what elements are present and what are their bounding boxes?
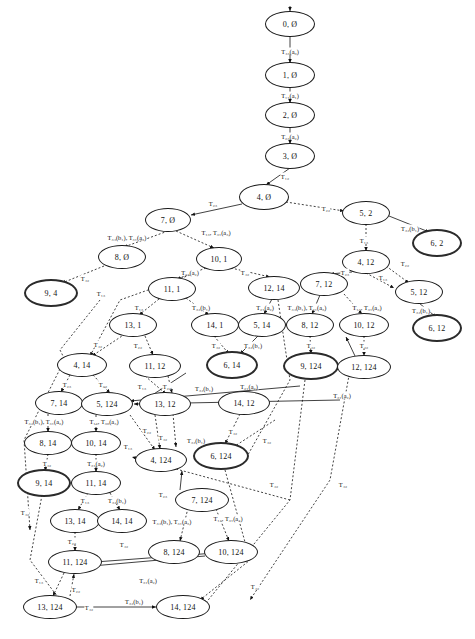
edge-label: T₁₃, T₃₁(a₃) [201, 229, 231, 236]
edge [286, 202, 344, 211]
edge-label: T₂₃ [158, 491, 167, 498]
edge-label: T₃₄(b₁) [194, 385, 213, 392]
edge-label: T₄₂ [269, 481, 278, 488]
edge-label: T₃₄(b₁), T₃₁(a₂) [24, 418, 64, 425]
edge-label: T₂₃(a₂) [281, 133, 300, 140]
graph-node[interactable]: 12, 124 [337, 355, 391, 379]
graph-node[interactable]: 11, 12 [129, 354, 181, 378]
edge-label: T₄₂ [80, 275, 89, 282]
edge-label: T₂₂ [71, 586, 80, 593]
edge-label: T₂₃ [340, 269, 349, 276]
graph-node[interactable]: 6, 2 [412, 229, 462, 257]
edge-label: T₃₄(b₁), T₃₁(a₃) [287, 304, 327, 311]
graph-node[interactable]: 8, 12 [286, 313, 334, 337]
edge-label: T₄₂ [306, 342, 315, 349]
edge-label: T₄₂ [338, 481, 347, 488]
edge-label: T₁₂ [280, 173, 289, 180]
edge-label: T₁₃ [378, 274, 387, 281]
graph-node[interactable]: 3, Ø [265, 143, 315, 169]
graph-node[interactable]: 1, Ø [265, 62, 315, 88]
graph-node[interactable]: 14, 1 [191, 313, 239, 337]
graph-node[interactable]: 4, 124 [135, 448, 187, 472]
edge-label: T₃₄(b₁), T₃₁(a₃) [152, 518, 192, 525]
graph-node[interactable]: 8, 14 [24, 431, 72, 455]
graph-node[interactable]: 8, Ø [98, 245, 146, 269]
edge [173, 414, 176, 447]
graph-node[interactable]: 4, 14 [57, 353, 107, 377]
edge-label: T₃₄(b₁) [243, 342, 262, 349]
edge-label: T₁₃ [80, 497, 89, 504]
edge [30, 495, 60, 600]
graph-node[interactable]: 9, 14 [17, 469, 71, 497]
edge-label: T₄₂ [20, 509, 29, 516]
edge [231, 268, 270, 277]
graph-node[interactable]: 5, 2 [342, 201, 390, 225]
edge-label: T₂₂ [98, 381, 107, 388]
graph-node[interactable]: 6, 12 [412, 314, 462, 342]
edge-label: T₄₂ [211, 342, 220, 349]
edge-label: T₂₁(a₂) [240, 383, 259, 390]
edge [180, 508, 188, 541]
graph-node[interactable]: 12, 14 [248, 276, 300, 300]
edge-label: T₂₃ [208, 200, 217, 207]
edge-label: T₂₃(a₂) [181, 269, 200, 276]
edge-label: T₄₂ [84, 604, 93, 611]
graph-node[interactable]: 13, 14 [50, 509, 100, 533]
edge-label: T₂₂ [321, 205, 330, 212]
graph-node[interactable]: 10, 124 [204, 540, 258, 564]
edge-label: T₁₃ [359, 237, 368, 244]
graph-node[interactable]: 6, 14 [206, 351, 258, 379]
graph-node[interactable]: 7, 124 [175, 488, 229, 512]
edge-label: T₃₄(b₁) [107, 497, 126, 504]
graph-node[interactable]: 6, 124 [193, 442, 249, 470]
edge-label: T₂₂ [142, 427, 151, 434]
edge-label: T₄₃(a₀) [281, 48, 300, 55]
edge-label: T₃₄(b₁) [400, 225, 419, 232]
graph-node[interactable]: 0, Ø [265, 11, 315, 37]
edge-label: T₂₁(a₂) [256, 304, 275, 311]
edge-label: T₁₃ [134, 304, 143, 311]
edge-label: T₁₃, T₃₁(a₃) [352, 304, 382, 311]
diagram-canvas: 0, Ø1, Ø2, Ø3, Ø4, Ø7, Ø5, 26, 28, Ø10, … [0, 0, 475, 639]
edge-label: T₄₂ [93, 341, 102, 348]
graph-node[interactable]: 13, 124 [23, 595, 77, 619]
edge-label: T₄₂ [250, 583, 259, 590]
graph-node[interactable]: 10, 14 [71, 431, 121, 455]
graph-node[interactable]: 14, 124 [156, 595, 210, 619]
graph-node[interactable]: 11, 124 [48, 550, 102, 574]
edge-label: T₃₄(b₁), T₃₁(a₃) [107, 234, 147, 241]
edge-label: T₃₄(b₁) [411, 307, 430, 314]
edge-label: T₁₃ [137, 383, 146, 390]
graph-node[interactable]: 13, 12 [139, 392, 191, 416]
edge-label: T₃₄(b₁) [191, 304, 210, 311]
graph-node[interactable]: 10, 12 [339, 313, 389, 337]
graph-node[interactable]: 14, 14 [97, 509, 147, 533]
graph-node[interactable]: 9, 4 [24, 279, 78, 307]
edge-label: T₁₁(a₁) [281, 92, 300, 99]
graph-node[interactable]: 4, Ø [239, 184, 289, 210]
edge-label: T₄₂ [42, 460, 51, 467]
graph-node[interactable]: 11, 14 [71, 471, 121, 495]
graph-node[interactable]: 9, 124 [283, 352, 339, 380]
graph-node[interactable]: 7, Ø [145, 208, 191, 232]
graph-node[interactable]: 7, 14 [35, 391, 83, 415]
graph-node[interactable]: 2, Ø [265, 102, 315, 128]
graph-node[interactable]: 8, 124 [148, 540, 200, 564]
graph-node[interactable]: 10, 1 [196, 247, 242, 271]
graph-node[interactable]: 14, 12 [218, 391, 270, 415]
graph-node[interactable]: 5, 14 [238, 313, 286, 337]
graph-node[interactable]: 5, 124 [81, 392, 133, 416]
graph-node[interactable]: 5, 12 [395, 280, 443, 304]
edge-label: T₁₃, T₃₀(a₃) [89, 418, 119, 425]
edge [155, 415, 160, 449]
edge-label: T₄₂ [228, 428, 237, 435]
graph-node[interactable]: 11, 1 [148, 277, 196, 301]
edge-label: T₄₂ [359, 342, 368, 349]
edge [180, 471, 182, 490]
edge-label: T₄₂ [119, 541, 128, 548]
graph-node[interactable]: 13, 1 [109, 313, 157, 337]
edge-label: T₂₂ [133, 342, 142, 349]
edge-label: T₃₁(a₂) [333, 392, 352, 399]
edge-label: T₁₃ [34, 577, 43, 584]
graph-node[interactable]: 7, 12 [300, 272, 348, 296]
